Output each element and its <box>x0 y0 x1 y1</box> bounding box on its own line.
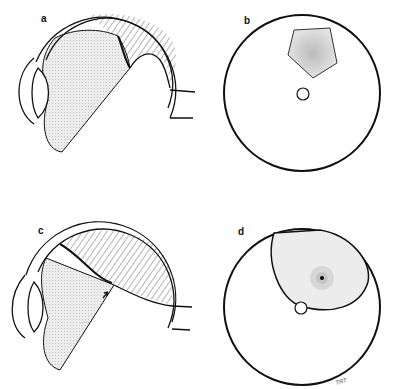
stippled-vitreous <box>43 30 130 152</box>
panel-c: c <box>12 222 192 370</box>
panel-label-d: d <box>238 226 244 237</box>
central-dot <box>320 276 324 280</box>
star-lesion <box>288 28 337 78</box>
lens <box>28 282 43 332</box>
optic-disc <box>295 302 307 314</box>
panel-a: a <box>19 13 195 152</box>
artist-signature: TRT <box>335 377 349 386</box>
figure: a b c <box>0 0 395 389</box>
panel-label-c: c <box>38 225 44 236</box>
cornea <box>12 275 25 338</box>
panel-label-b: b <box>244 15 250 26</box>
optic-disc <box>297 88 309 100</box>
panel-b: b <box>224 15 380 171</box>
panel-label-a: a <box>41 13 47 24</box>
panel-d: d TRT <box>224 226 380 386</box>
